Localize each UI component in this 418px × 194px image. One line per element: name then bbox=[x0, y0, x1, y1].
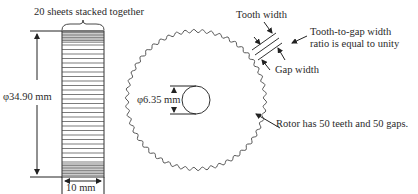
tooth-detail bbox=[252, 33, 282, 60]
diameter-dimension bbox=[30, 31, 62, 177]
tooth-width-label: Tooth width bbox=[236, 9, 287, 21]
stack-title: 20 sheets stacked together bbox=[34, 6, 144, 18]
stack-width-label: 10 mm bbox=[66, 182, 95, 194]
teeth-note: Rotor has 50 teeth and 50 gaps. bbox=[276, 118, 408, 130]
rotor-bore bbox=[182, 86, 210, 114]
ratio-note-line1: Tooth-to-gap width bbox=[310, 26, 391, 38]
sheet-stack bbox=[62, 31, 104, 177]
gap-width-label: Gap width bbox=[275, 64, 319, 76]
ratio-note-line2: ratio is equal to unity bbox=[310, 38, 399, 50]
bore-diameter-label: φ6.35 mm bbox=[137, 94, 180, 106]
stack-brace bbox=[62, 20, 104, 30]
outer-diameter-label: φ34.90 mm bbox=[3, 91, 52, 103]
